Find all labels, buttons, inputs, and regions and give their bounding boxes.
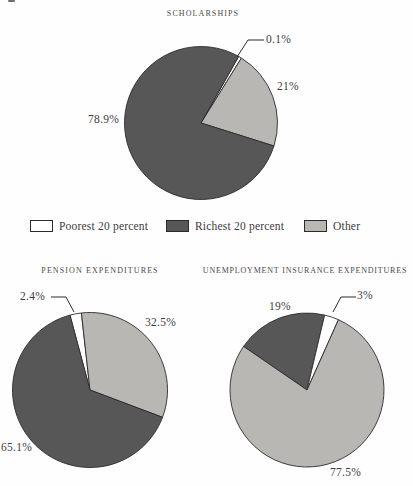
legend-label-poorest: Poorest 20 percent: [59, 220, 148, 232]
label-pension-other: 32.5%: [145, 316, 176, 328]
legend-item-richest: Richest 20 percent: [166, 220, 284, 232]
leader-line-unemployment-poorest: [333, 297, 356, 312]
label-unemployment-poorest: 3%: [357, 289, 373, 301]
label-scholarships-poorest: 0.1%: [266, 33, 291, 45]
figure-page: SCHOLARSHIPS PENSION EXPENDITURES UNEMPL…: [0, 0, 413, 486]
pie-scholarships: [124, 47, 277, 200]
pie-unemployment: [230, 313, 384, 467]
legend-label-richest: Richest 20 percent: [195, 220, 284, 232]
legend-swatch-other: [304, 220, 327, 232]
leader-line-pension-poorest: [51, 297, 74, 312]
legend-swatch-poorest: [30, 220, 53, 232]
legend-label-other: Other: [333, 220, 360, 232]
label-pension-richest: 65.1%: [1, 441, 32, 453]
pie-charts-canvas: [0, 0, 413, 486]
label-scholarships-other: 21%: [277, 80, 299, 92]
leader-line-scholarships-poorest: [237, 40, 264, 57]
pie-pension: [13, 313, 168, 468]
legend-item-poorest: Poorest 20 percent: [30, 220, 148, 232]
label-pension-poorest: 2.4%: [20, 290, 45, 302]
legend-item-other: Other: [304, 220, 360, 232]
label-unemployment-other: 77.5%: [330, 466, 361, 478]
legend-swatch-richest: [166, 220, 189, 232]
label-scholarships-richest: 78.9%: [88, 113, 119, 125]
label-unemployment-richest: 19%: [269, 300, 291, 312]
legend: Poorest 20 percent Richest 20 percent Ot…: [0, 220, 413, 236]
